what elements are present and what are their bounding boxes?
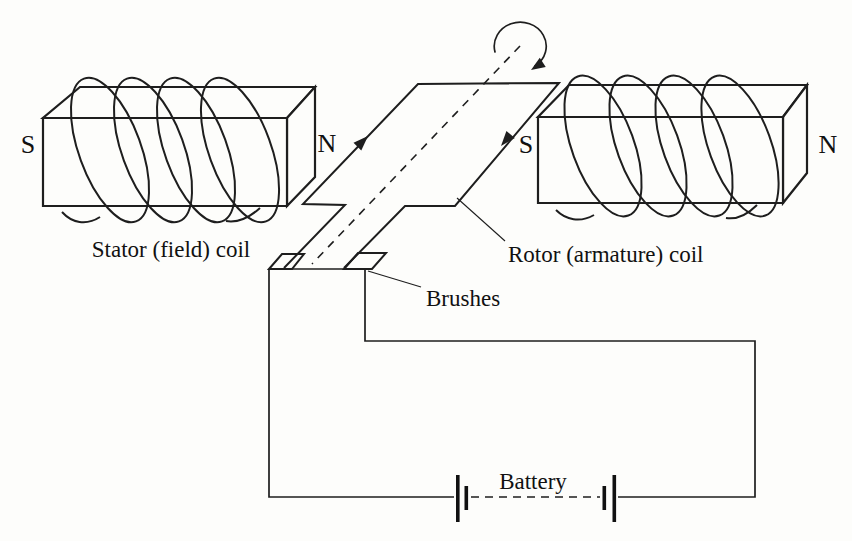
rotor-label-leader xyxy=(457,198,505,241)
magnet-left-front-face xyxy=(43,118,287,206)
wire-right-branch xyxy=(365,269,755,497)
battery-right-cell-short-plate xyxy=(603,486,607,510)
brushes-label: Brushes xyxy=(426,286,500,311)
coil-left-tail-left xyxy=(62,212,100,222)
stator-magnet-right xyxy=(538,85,807,203)
rotation-arc xyxy=(494,22,546,66)
right-magnet-north-label: N xyxy=(819,130,838,159)
rotor-loop-wire xyxy=(284,83,559,268)
axis-dashed-line xyxy=(312,46,520,264)
brushes-label-leader xyxy=(368,271,421,287)
rotor-caption: Rotor (armature) coil xyxy=(508,242,703,267)
battery-right-cell-long-plate xyxy=(613,475,617,522)
battery-left-cell-long-plate xyxy=(456,475,460,522)
rotation-axis xyxy=(312,22,546,264)
battery-left-cell-short-plate xyxy=(465,486,469,510)
left-magnet-south-label: S xyxy=(21,130,35,159)
stator-caption: Stator (field) coil xyxy=(92,237,250,262)
dc-motor-diagram: S N S N Stator (field) coil Rotor (armat… xyxy=(0,0,852,541)
rotor-armature-loop xyxy=(284,83,559,268)
rotation-arrowhead xyxy=(528,58,546,75)
magnet-left-top-face xyxy=(43,87,315,118)
battery-label: Battery xyxy=(499,469,567,494)
right-magnet-south-label: S xyxy=(519,130,533,159)
left-magnet-north-label: N xyxy=(318,129,337,158)
magnet-right-top-face xyxy=(538,85,807,117)
coil-right-tail-left xyxy=(556,210,594,220)
